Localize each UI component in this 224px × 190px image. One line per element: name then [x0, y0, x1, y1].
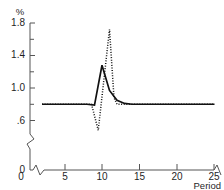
x-tick-label-20: 20: [171, 171, 183, 182]
y-axis-break: [27, 130, 34, 170]
series-solid-line: [42, 65, 215, 105]
y-tick-label-1-8: 1.8: [11, 17, 25, 28]
y-axis-label: %: [16, 6, 25, 17]
line-chart: % 1.8 1.4 1.0 .6 0 0 5 10 15 20 25: [0, 0, 224, 190]
x-tick-label-10: 10: [96, 171, 108, 182]
x-tick-label-5: 5: [62, 171, 68, 182]
chart-container: % 1.8 1.4 1.0 .6 0 0 5 10 15 20 25: [0, 0, 224, 190]
x-axis-line: [30, 165, 221, 175]
y-tick-label-1-0: 1.0: [11, 82, 25, 93]
y-tick-label-1-4: 1.4: [11, 49, 25, 60]
series-dotted-line: [42, 30, 215, 131]
x-tick-label-15: 15: [134, 171, 146, 182]
x-tick-label-0: 0: [18, 171, 24, 182]
y-tick-label-0-6: .6: [17, 115, 26, 126]
x-axis-label: Period: [194, 180, 221, 190]
